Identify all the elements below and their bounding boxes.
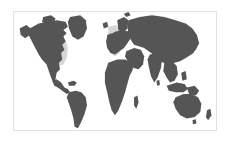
world-map-figure — [0, 0, 230, 141]
tasmania-landmass — [192, 119, 196, 124]
map-frame — [13, 11, 217, 131]
world-map-svg — [14, 12, 216, 130]
sri-lanka-landmass — [157, 80, 160, 86]
